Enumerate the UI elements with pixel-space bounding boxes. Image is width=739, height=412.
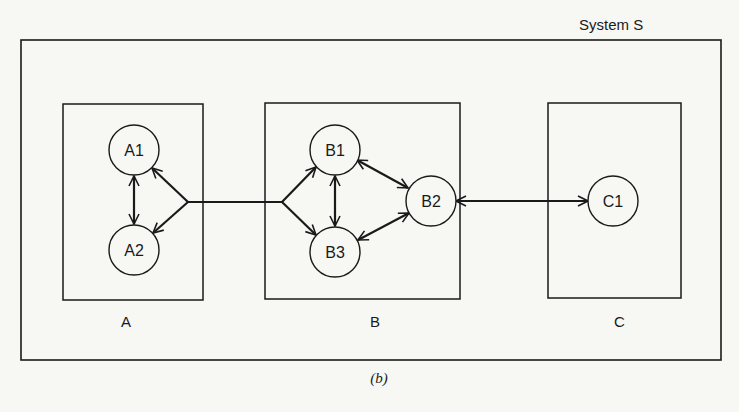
node-c1-label: C1 [603, 193, 624, 210]
system-s-label: System S [579, 16, 643, 33]
subsystem-a-label: A [121, 313, 131, 330]
edge-junction-b1 [282, 167, 316, 202]
edge-b3-b2 [358, 213, 409, 240]
edge-junction-a1 [152, 168, 188, 202]
node-b2-label: B2 [421, 193, 441, 210]
edge-junction-b3 [282, 202, 316, 235]
edge-b1-b2 [357, 160, 408, 188]
system-diagram: System S A B C A1 A2 B1 B3 B2 [0, 0, 739, 412]
node-b1-label: B1 [325, 142, 345, 159]
subsystem-c-label: C [614, 313, 625, 330]
edge-junction-a2 [153, 202, 188, 233]
subsystem-b-label: B [370, 313, 380, 330]
node-b3-label: B3 [325, 244, 345, 261]
figure-caption: (b) [370, 370, 388, 387]
node-a2-label: A2 [124, 242, 144, 259]
node-a1-label: A1 [124, 142, 144, 159]
